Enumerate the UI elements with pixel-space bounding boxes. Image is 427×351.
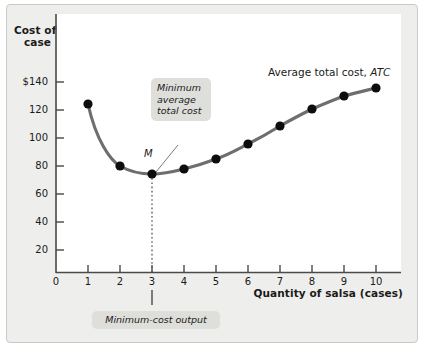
data-point-7 xyxy=(275,121,284,130)
data-point-2 xyxy=(115,161,124,170)
plot-graphics xyxy=(0,0,427,351)
series-label-atc: Average total cost, ATC xyxy=(268,66,390,78)
series-label-text: Average total cost, xyxy=(268,66,367,78)
data-point-6 xyxy=(243,139,252,148)
callout-line-3: total cost xyxy=(157,105,201,116)
data-point-1 xyxy=(83,99,92,108)
callout-minimum-cost-output: Minimum-cost output xyxy=(92,311,220,329)
data-point-9 xyxy=(339,91,348,100)
data-point-8 xyxy=(307,104,316,113)
chart-figure: Cost of case Quantity of salsa (cases) $… xyxy=(0,0,427,351)
data-point-4 xyxy=(179,164,188,173)
callout-line-1: Minimum xyxy=(157,82,201,93)
data-point-10 xyxy=(371,83,380,92)
data-point-3-minimum xyxy=(147,169,156,178)
callout-line-2: average xyxy=(157,94,196,105)
data-point-5 xyxy=(211,154,220,163)
atc-curve xyxy=(88,88,376,174)
series-label-abbrev: ATC xyxy=(370,66,390,78)
callout-leader-line xyxy=(156,145,178,172)
minimum-point-label: M xyxy=(144,148,153,159)
x-axis-ticks xyxy=(88,265,376,272)
y-axis-ticks xyxy=(56,82,64,250)
callout-minimum-average-total-cost: Minimum average total cost xyxy=(151,78,211,121)
